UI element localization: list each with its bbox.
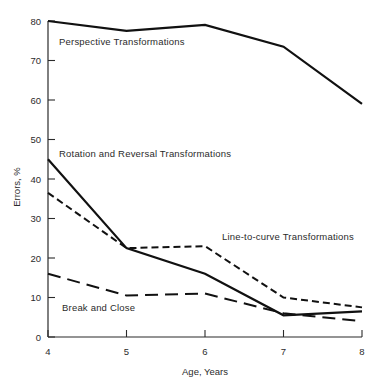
y-tick-label: 0 bbox=[36, 332, 41, 343]
y-tick-label: 70 bbox=[30, 55, 41, 66]
y-tick-label: 10 bbox=[30, 292, 41, 303]
x-tick-label: 5 bbox=[124, 346, 129, 357]
x-tick-label: 6 bbox=[202, 346, 207, 357]
y-tick-label: 50 bbox=[30, 134, 41, 145]
x-tick-label: 4 bbox=[45, 346, 50, 357]
x-tick-label: 7 bbox=[281, 346, 286, 357]
series-label-perspective-transformations: Perspective Transformations bbox=[59, 36, 185, 47]
y-tick-label: 40 bbox=[30, 174, 41, 185]
y-axis-title: Errors, % bbox=[11, 167, 22, 207]
series-label-break-and-close: Break and Close bbox=[62, 302, 135, 313]
y-tick-label: 80 bbox=[30, 16, 41, 27]
errors-by-age-line-chart: 0 10 20 30 40 50 60 70 80 4 5 6 7 8 Age, bbox=[0, 0, 383, 383]
y-axis-tick-labels: 0 10 20 30 40 50 60 70 80 bbox=[30, 16, 41, 343]
y-tick-label: 20 bbox=[30, 253, 41, 264]
chart-background bbox=[0, 0, 383, 383]
y-tick-label: 30 bbox=[30, 213, 41, 224]
series-label-line-to-curve-transformations: Line-to-curve Transformations bbox=[222, 231, 354, 242]
chart-canvas: 0 10 20 30 40 50 60 70 80 4 5 6 7 8 Age, bbox=[0, 0, 383, 383]
y-tick-label: 60 bbox=[30, 95, 41, 106]
x-axis-title: Age, Years bbox=[182, 366, 228, 377]
x-tick-label: 8 bbox=[359, 346, 364, 357]
series-label-rotation-and-reversal-transformations: Rotation and Reversal Transformations bbox=[59, 148, 231, 159]
